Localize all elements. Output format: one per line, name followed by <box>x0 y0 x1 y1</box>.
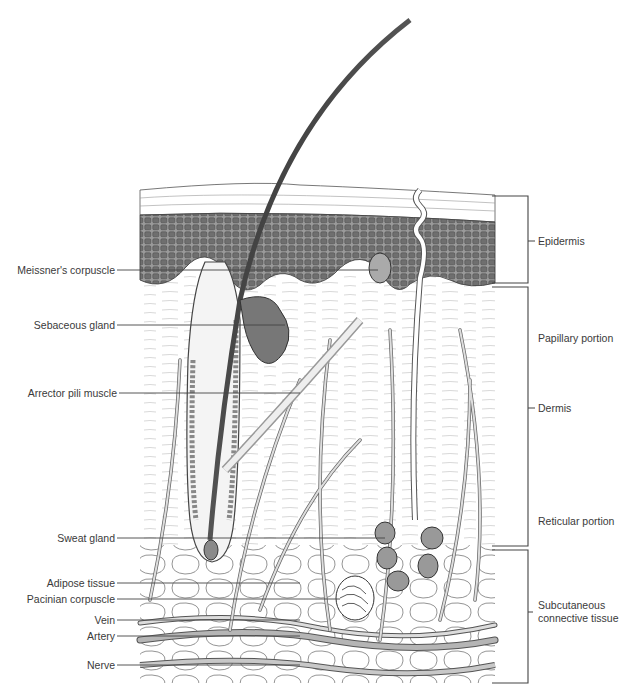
label-meissners-corpuscle: Meissner's corpuscle <box>17 264 115 276</box>
label-adipose-tissue: Adipose tissue <box>47 577 115 589</box>
label-reticular-portion: Reticular portion <box>538 515 614 527</box>
label-papillary-portion: Papillary portion <box>538 332 613 344</box>
label-artery: Artery <box>87 630 115 642</box>
label-vein: Vein <box>95 614 115 626</box>
label-sebaceous-gland: Sebaceous gland <box>34 319 115 331</box>
label-epidermis: Epidermis <box>538 235 585 247</box>
label-nerve: Nerve <box>87 659 115 671</box>
label-dermis: Dermis <box>538 402 571 414</box>
label-pacinian-corpuscle: Pacinian corpuscle <box>27 593 115 605</box>
pacinian-corpuscle <box>336 576 374 620</box>
meissners-corpuscle <box>369 253 391 283</box>
brackets <box>492 196 535 683</box>
label-sweat-gland: Sweat gland <box>57 532 115 544</box>
label-subcutaneous-line2: connective tissue <box>538 612 619 624</box>
label-subcutaneous-line1: Subcutaneous <box>538 599 605 611</box>
label-arrector-pili-muscle: Arrector pili muscle <box>28 387 117 399</box>
